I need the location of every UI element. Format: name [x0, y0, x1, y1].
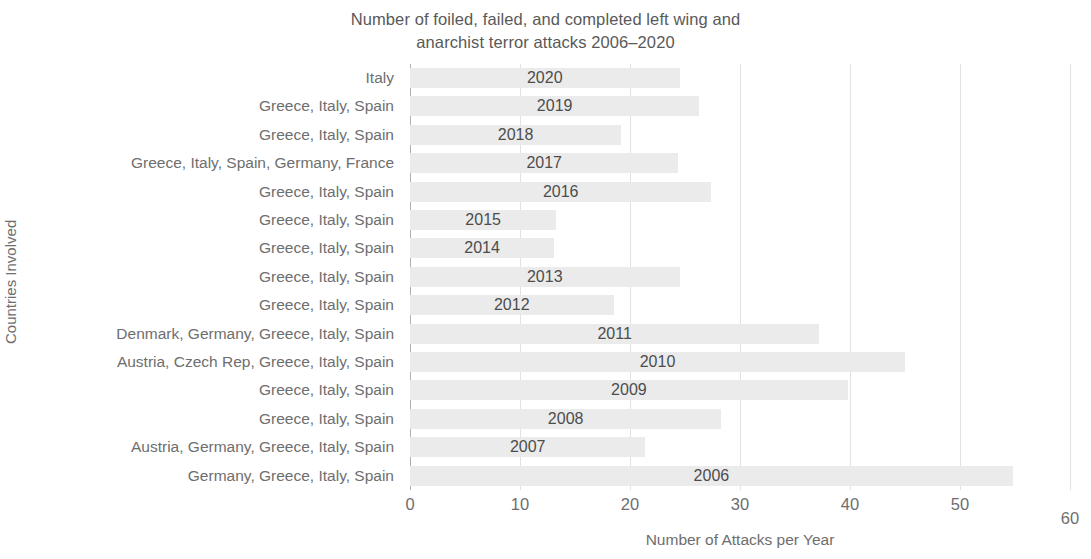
- bar-row[interactable]: 2016: [410, 178, 1070, 206]
- bar-value-label: 2011: [597, 322, 631, 346]
- bar-row[interactable]: 2017: [410, 149, 1070, 177]
- y-axis-tick-label: Austria, Germany, Greece, Italy, Spain: [131, 433, 394, 461]
- y-axis-tick-label: Greece, Italy, Spain: [259, 405, 394, 433]
- plot-area: 2020201920182017201620152014201320122011…: [410, 64, 1070, 490]
- x-axis-tick-label: 30: [731, 495, 749, 514]
- bar-value-label: 2020: [527, 66, 563, 90]
- bar-row[interactable]: 2008: [410, 405, 1070, 433]
- bar-row[interactable]: 2020: [410, 64, 1070, 92]
- x-axis-tick-label: 40: [841, 495, 859, 514]
- chart-title-line-1: Number of foiled, failed, and completed …: [0, 8, 1091, 31]
- y-axis-tick-label: Greece, Italy, Spain, Germany, France: [131, 149, 394, 177]
- bar-row[interactable]: 2011: [410, 320, 1070, 348]
- y-axis-tick-label: Italy: [366, 64, 394, 92]
- bar-value-label: 2013: [527, 265, 563, 289]
- bar-row[interactable]: 2012: [410, 291, 1070, 319]
- bar-value-label: 2019: [537, 94, 573, 118]
- bar-value-label: 2012: [494, 293, 530, 317]
- x-axis-tick-labels: 0102030405060: [410, 495, 1070, 521]
- y-axis-tick-label: Denmark, Germany, Greece, Italy, Spain: [116, 320, 394, 348]
- x-axis-tick-label: 0: [405, 495, 414, 514]
- bar-value-label: 2018: [498, 123, 534, 147]
- bar-row[interactable]: 2014: [410, 234, 1070, 262]
- bar-value-label: 2010: [640, 350, 676, 374]
- bar-row[interactable]: 2010: [410, 348, 1070, 376]
- bar-value-label: 2009: [611, 378, 647, 402]
- bar-row[interactable]: 2013: [410, 263, 1070, 291]
- chart-title-line-2: anarchist terror attacks 2006–2020: [0, 31, 1091, 54]
- x-axis-tick-label: 50: [951, 495, 969, 514]
- bar-chart: Number of foiled, failed, and completed …: [0, 0, 1091, 559]
- y-axis-tick-label: Greece, Italy, Spain: [259, 92, 394, 120]
- bar-value-label: 2015: [465, 208, 501, 232]
- chart-title: Number of foiled, failed, and completed …: [0, 8, 1091, 54]
- bar-row[interactable]: 2019: [410, 92, 1070, 120]
- y-axis-tick-label: Greece, Italy, Spain: [259, 178, 394, 206]
- y-axis-tick-label: Greece, Italy, Spain: [259, 121, 394, 149]
- y-axis-tick-label: Greece, Italy, Spain: [259, 263, 394, 291]
- bar-row[interactable]: 2018: [410, 121, 1070, 149]
- bar-value-label: 2006: [694, 464, 730, 488]
- x-axis-tick-label: 20: [621, 495, 639, 514]
- bar-value-label: 2017: [526, 151, 562, 175]
- bar-row[interactable]: 2015: [410, 206, 1070, 234]
- bar-row[interactable]: 2006: [410, 462, 1070, 490]
- y-axis-tick-label: Greece, Italy, Spain: [259, 291, 394, 319]
- bar-row[interactable]: 2007: [410, 433, 1070, 461]
- y-axis-tick-label: Greece, Italy, Spain: [259, 376, 394, 404]
- y-axis-tick-label: Austria, Czech Rep, Greece, Italy, Spain: [117, 348, 394, 376]
- x-axis-tick-label: 10: [511, 495, 529, 514]
- bar-value-label: 2014: [464, 236, 500, 260]
- bar-value-label: 2007: [510, 435, 546, 459]
- x-axis-tick-label: 60: [1061, 509, 1079, 528]
- y-axis-tick-label: Greece, Italy, Spain: [259, 234, 394, 262]
- bar-value-label: 2016: [543, 180, 579, 204]
- x-axis-title: Number of Attacks per Year: [410, 531, 1070, 549]
- y-axis-tick-label: Greece, Italy, Spain: [259, 206, 394, 234]
- gridline-60: [1070, 64, 1071, 490]
- y-axis-tick-labels: ItalyGreece, Italy, SpainGreece, Italy, …: [0, 64, 402, 490]
- bar-value-label: 2008: [548, 407, 584, 431]
- y-axis-tick-label: Germany, Greece, Italy, Spain: [188, 462, 394, 490]
- bar-row[interactable]: 2009: [410, 376, 1070, 404]
